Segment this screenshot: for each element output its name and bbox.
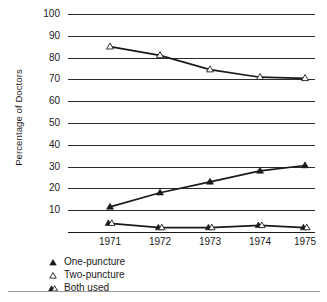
series-line xyxy=(110,47,305,79)
series-both-used xyxy=(105,220,310,230)
legend-item: One-puncture xyxy=(46,255,125,268)
series-one-puncture xyxy=(107,162,309,209)
filled-triangle-icon xyxy=(302,162,309,168)
chart-legend: One-punctureTwo-punctureBoth used xyxy=(46,255,125,294)
filled-triangle-icon xyxy=(50,259,56,265)
legend-marker xyxy=(46,256,62,268)
plot-area: 100908070605040302010 197119721973197419… xyxy=(0,0,327,245)
legend-label: Two-puncture xyxy=(62,269,125,281)
series-layer xyxy=(0,0,327,245)
series-line xyxy=(110,166,305,207)
series-two-puncture xyxy=(107,43,309,81)
bottom-rule xyxy=(8,291,320,292)
legend-label: One-puncture xyxy=(62,256,125,268)
open-triangle-icon xyxy=(107,43,114,49)
chart-figure: Percentage of Doctors 100908070605040302… xyxy=(0,0,327,302)
legend-marker xyxy=(46,269,62,281)
legend-item: Both used xyxy=(46,281,125,294)
open-triangle-icon xyxy=(50,272,56,278)
legend-item: Two-puncture xyxy=(46,268,125,281)
